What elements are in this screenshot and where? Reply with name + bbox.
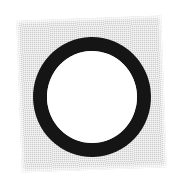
ring-interior-disc bbox=[47, 51, 137, 143]
figure-canvas bbox=[0, 0, 173, 182]
